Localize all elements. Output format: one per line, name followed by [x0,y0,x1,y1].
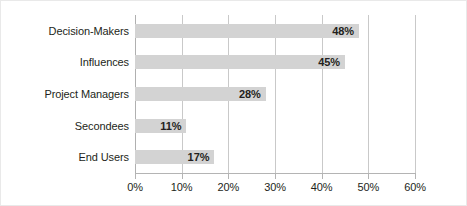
chart-figure: Decision-MakersInfluencesProject Manager… [0,0,467,206]
category-label: End Users [3,151,129,163]
bar-value-label: 28% [135,87,261,101]
bar-value-label: 11% [135,119,181,133]
gridline-50pct [368,15,369,173]
x-tick-label: 60% [385,181,445,193]
x-tick-mark [368,174,369,179]
bar-value-label: 48% [135,24,354,38]
x-tick-mark [182,174,183,179]
category-label: Secondees [3,120,129,132]
bar-value-label: 17% [135,150,209,164]
category-label: Influences [3,56,129,68]
x-tick-mark [415,174,416,179]
category-label: Project Managers [3,88,129,100]
x-tick-mark [275,174,276,179]
x-tick-mark [322,174,323,179]
gridline-30pct [275,15,276,173]
gridline-40pct [322,15,323,173]
x-tick-mark [135,174,136,179]
x-tick-mark [228,174,229,179]
plot-area: 48%45%28%11%17% [135,15,415,173]
bar-value-label: 45% [135,55,340,69]
category-label: Decision-Makers [3,25,129,37]
gridline-60pct [415,15,416,173]
